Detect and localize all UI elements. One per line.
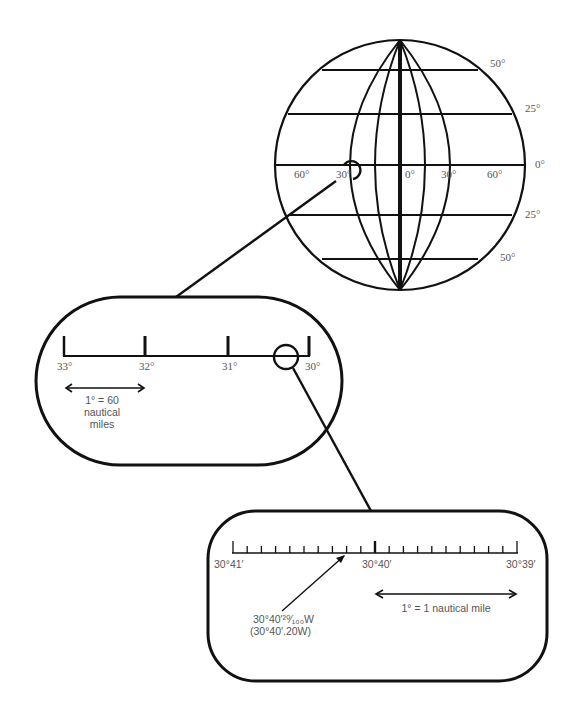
double-arrow-icon (376, 590, 516, 598)
lat-label-25s: 25° (525, 208, 540, 220)
scale-note: 1° = 1 nautical mile (401, 602, 490, 614)
lon-label-30e: 30° (441, 168, 456, 180)
tick-label-31: 31° (222, 360, 237, 372)
tick-label-32: 32° (139, 360, 154, 372)
tick-label-30-39: 30°39′ (506, 558, 536, 570)
scale-note-line1: 1° = 60 (85, 394, 119, 406)
callout-coordinate-decimal: (30°40′.20W) (250, 625, 311, 637)
tick-label-30: 30° (305, 360, 320, 372)
lon-label-0: 0° (405, 168, 415, 180)
lon-label-60e: 60° (487, 168, 502, 180)
scale-note-line3: miles (90, 418, 115, 430)
lon-label-60w: 60° (294, 168, 309, 180)
tick-label-30-40: 30°40′ (362, 558, 392, 570)
lat-label-50s: 50° (500, 251, 515, 263)
connector-line-2 (293, 368, 371, 511)
lon-label-30w: 30° (336, 168, 351, 180)
tick-label-30-41: 30°41′ (214, 558, 244, 570)
degree-scale (63, 336, 310, 356)
lat-label-50n: 50° (490, 57, 505, 69)
minutes-panel (208, 511, 547, 681)
callout-arrow-icon (282, 555, 345, 611)
globe (275, 40, 525, 290)
lat-label-equator: 0° (535, 158, 545, 170)
degrees-panel (36, 297, 342, 465)
connector-line-1 (176, 181, 336, 297)
tick-label-33: 33° (57, 360, 72, 372)
lat-label-25n: 25° (525, 102, 540, 114)
latitude-longitude-diagram: 50° 25° 0° 25° 50° 60° 30° 0° 30° 60° 33… (0, 0, 579, 720)
callout-coordinate: 30°40′²⁰⁄₁₀₀W (253, 613, 314, 625)
minute-scale (232, 541, 518, 553)
scale-note-line2: nautical (84, 406, 120, 418)
double-arrow-icon (66, 384, 144, 392)
